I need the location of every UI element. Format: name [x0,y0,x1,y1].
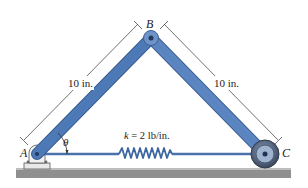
length-label-ab: 10 in. [68,77,93,89]
point-label-c: C [282,146,290,161]
length-label-bc: 10 in. [214,77,239,89]
truss-mechanism-diagram [0,0,308,188]
pin-a [35,152,39,156]
spring-k-value: = 2 lb/in. [131,130,169,141]
spring-k-symbol: k [124,130,129,141]
spring-constant-label: k = 2 lb/in. [124,130,170,141]
angle-theta-label: θ [63,136,68,148]
joint-b [144,31,159,46]
point-label-b: B [146,17,153,32]
spring [37,148,262,158]
ground [16,168,291,178]
point-label-a: A [20,146,27,161]
